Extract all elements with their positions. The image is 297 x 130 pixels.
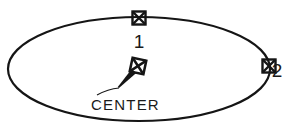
label-point-2: 2 (272, 60, 283, 81)
label-center: CENTER (91, 96, 160, 113)
center-marker[interactable] (130, 58, 147, 75)
cad-drawing-canvas: 1 2 CENTER (0, 0, 297, 130)
ellipse-diagram: 1 2 CENTER (0, 0, 297, 130)
leader-line (97, 88, 119, 95)
label-point-1: 1 (134, 31, 145, 52)
